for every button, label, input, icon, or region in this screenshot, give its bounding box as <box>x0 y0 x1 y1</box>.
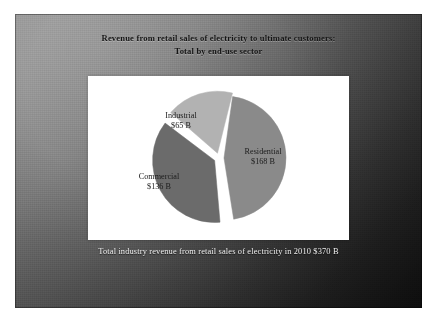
slide-caption: Total industry revenue from retail sales… <box>15 246 422 258</box>
slide-title-line-1: Revenue from retail sales of electricity… <box>15 32 422 45</box>
slide-title: Revenue from retail sales of electricity… <box>15 32 422 57</box>
presentation-slide: Revenue from retail sales of electricity… <box>15 14 422 308</box>
slide-caption-text: Total industry revenue from retail sales… <box>98 247 338 256</box>
pie-chart: Residential$168 BCommercial$136 BIndustr… <box>88 76 349 240</box>
slide-title-line-2: Total by end-use sector <box>15 45 422 58</box>
chart-panel: Residential$168 BCommercial$136 BIndustr… <box>88 76 349 240</box>
